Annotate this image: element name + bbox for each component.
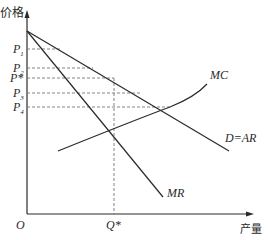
price-labels: P1 P2 P* P3 P4 — [9, 42, 24, 116]
monopoly-diagram: 价格 产量 O Q* P1 P2 P* P3 P4 MC D=AR MR — [0, 0, 268, 240]
origin-label: O — [16, 218, 25, 232]
demand-label: D=AR — [224, 131, 257, 145]
y-axis-label: 价格 — [0, 5, 24, 20]
x-axis-label: 产量 — [240, 222, 262, 236]
mr-label: MR — [166, 186, 185, 200]
p1-label: P1 — [12, 42, 24, 58]
mr-curve — [27, 31, 163, 197]
pstar-label: P* — [9, 71, 23, 85]
x-axis-arrow-icon — [246, 212, 254, 217]
mc-label: MC — [209, 68, 229, 82]
qstar-label: Q* — [106, 218, 121, 232]
p4-label: P4 — [12, 100, 24, 116]
y-axis-arrow-icon — [25, 10, 30, 18]
curves — [27, 31, 229, 197]
axes — [27, 16, 248, 214]
